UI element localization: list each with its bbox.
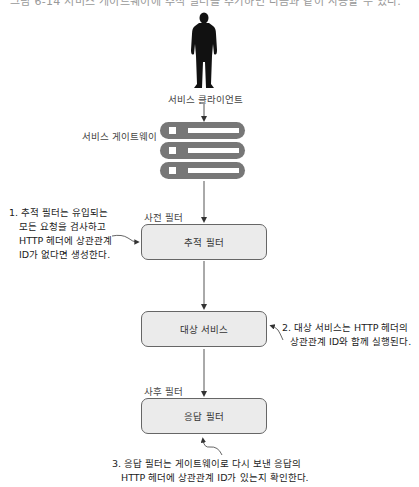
annotation-2-line: 상관관계 ID와 함께 실행된다. [282,335,411,349]
annotation-1-line: HTTP 헤더에 상관관계 [9,234,112,248]
pre-filter-section-label: 사전 필터 [144,210,183,224]
tracking-filter-box: 추적 필터 [141,224,267,260]
annotation-2-line: 2. 대상 서비스는 HTTP 헤더의 [282,321,411,335]
target-service-label: 대상 서비스 [180,322,228,336]
target-service-box: 대상 서비스 [141,311,267,347]
annotation-3-connector [203,440,222,455]
annotation-2: 2. 대상 서비스는 HTTP 헤더의 상관관계 ID와 함께 실행된다. [282,321,411,349]
annotation-1-line: ID가 없다면 생성한다. [9,248,112,262]
annotation-1-connector [112,235,137,242]
annotation-1: 1. 추적 필터는 유입되는 모든 요청을 검사하고 HTTP 헤더에 상관관계… [9,206,112,262]
annotation-3: 3. 응답 필터는 게이트웨이로 다시 보낸 응답의 HTTP 헤더에 상관관계… [112,457,309,485]
response-filter-label: 응답 필터 [184,409,223,423]
annotation-3-line: HTTP 헤더에 상관관계 ID가 있는지 확인한다. [112,471,309,485]
post-filter-section-label: 사후 필터 [144,384,183,398]
response-filter-box: 응답 필터 [141,398,267,434]
tracking-filter-label: 추적 필터 [184,235,223,249]
annotation-3-line: 3. 응답 필터는 게이트웨이로 다시 보낸 응답의 [112,457,309,471]
annotation-1-line: 모든 요청을 검사하고 [9,220,112,234]
annotation-1-line: 1. 추적 필터는 유입되는 [9,206,112,220]
